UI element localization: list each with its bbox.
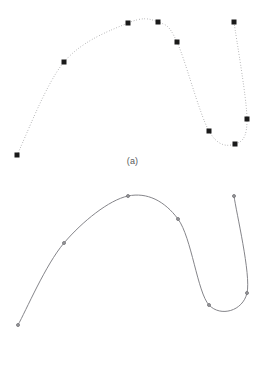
panel-a-plot bbox=[0, 0, 265, 180]
panel-a: (a) bbox=[0, 0, 265, 180]
control-point-marker bbox=[246, 292, 249, 295]
control-point-marker bbox=[233, 142, 238, 147]
panel-a-caption: (a) bbox=[0, 156, 265, 166]
spline-interpolation-figure: (a) (b) bbox=[0, 0, 265, 369]
panel-b-plot bbox=[0, 180, 265, 369]
control-point-marker bbox=[17, 324, 20, 327]
control-point-marker bbox=[126, 21, 131, 26]
control-point-marker bbox=[232, 20, 237, 25]
control-point-marker bbox=[207, 129, 212, 134]
control-point-marker bbox=[63, 242, 66, 245]
control-point-marker bbox=[156, 20, 161, 25]
control-point-marker bbox=[233, 195, 236, 198]
panel-b: (b) bbox=[0, 180, 265, 369]
control-point-marker bbox=[62, 60, 67, 65]
control-point-marker bbox=[127, 195, 130, 198]
interpolating-curve bbox=[18, 195, 248, 325]
control-point-marker bbox=[175, 40, 180, 45]
interpolating-curve bbox=[17, 19, 247, 155]
control-point-marker bbox=[245, 117, 250, 122]
control-point-marker bbox=[208, 304, 211, 307]
control-point-marker bbox=[177, 218, 180, 221]
